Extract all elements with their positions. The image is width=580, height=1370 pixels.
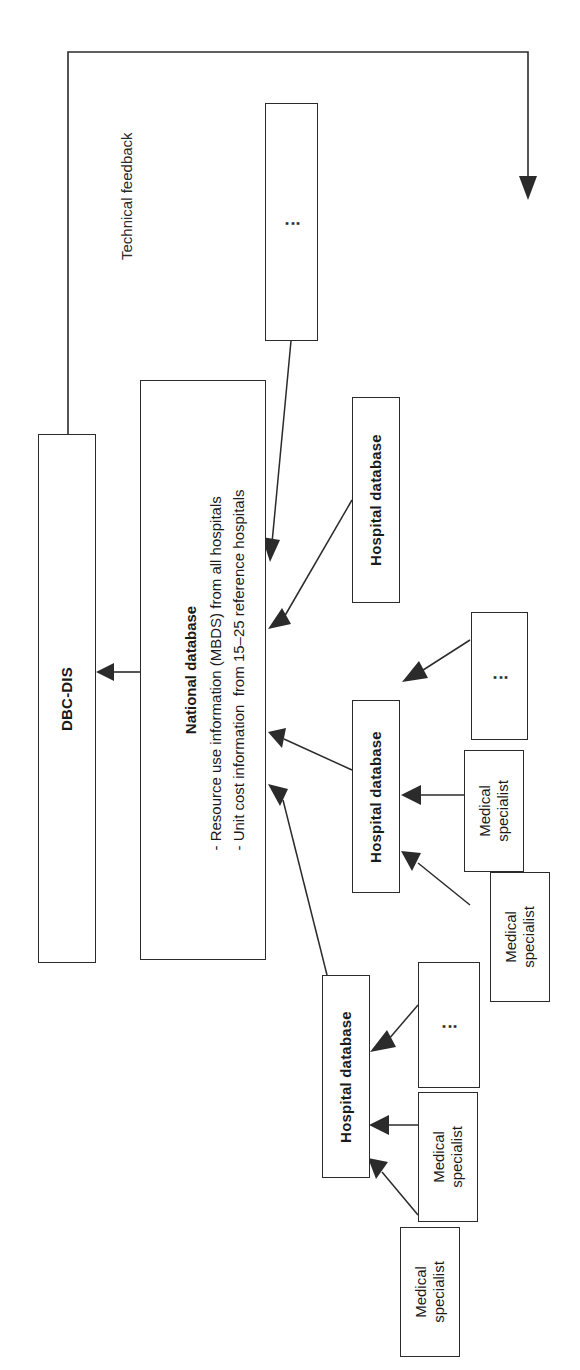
- edge-specialist-mid-2-arrowhead: [401, 851, 421, 871]
- node-medical-specialist-mid-1[interactable]: Medical specialist: [464, 750, 524, 872]
- node-hospital-database-top-label: Hospital database: [367, 434, 385, 566]
- edge-morehospitals-to-nationaldb: [272, 341, 291, 543]
- edge-hospitaldb-top-to-nationaldb: [283, 500, 352, 619]
- node-medical-specialist-bottom-2-label: Medical specialist: [412, 1261, 448, 1323]
- more-hospitals-ellipsis-icon: ⋮: [281, 213, 302, 232]
- edge-morespecialists-bottom-arrowhead: [370, 1030, 396, 1052]
- diagram-canvas: DBC-DIS National database- Resource use …: [0, 0, 580, 1370]
- edge-nationaldb-to-dbcdis-arrowhead: [96, 663, 114, 681]
- edge-specialist-bottom-1-arrowhead: [369, 1115, 389, 1135]
- edge-feedback-arrowhead: [519, 176, 537, 200]
- node-medical-specialist-mid-2[interactable]: Medical specialist: [490, 872, 550, 1002]
- edge-morespecialists-mid: [420, 640, 470, 672]
- node-medical-specialist-mid-2-label: Medical specialist: [502, 906, 538, 968]
- node-hospital-database-mid-label: Hospital database: [367, 731, 385, 863]
- node-national-database-title: National database: [179, 489, 202, 850]
- more-specialists-bottom-ellipsis-icon: ⋮: [439, 1016, 460, 1035]
- node-dbc-dis-label: DBC-DIS: [58, 667, 76, 731]
- node-hospital-database-top[interactable]: Hospital database: [352, 397, 400, 603]
- edge-hospitaldb-bottom-to-nationaldb: [283, 800, 327, 975]
- node-national-database[interactable]: National database- Resource use informat…: [140, 380, 266, 960]
- node-hospital-database-bottom-label: Hospital database: [337, 1011, 355, 1143]
- node-medical-specialist-bottom-1-label: Medical specialist: [430, 1126, 466, 1188]
- node-medical-specialist-bottom-1[interactable]: Medical specialist: [418, 1092, 478, 1222]
- node-more-specialists-mid[interactable]: ⋮: [471, 612, 528, 740]
- node-more-specialists-bottom[interactable]: ⋮: [418, 962, 480, 1088]
- node-more-hospitals[interactable]: ⋮: [265, 103, 318, 341]
- more-specialists-mid-ellipsis-icon: ⋮: [489, 667, 510, 686]
- node-national-database-line1: - Resource use information (MBDS) from a…: [207, 496, 224, 850]
- node-hospital-database-bottom[interactable]: Hospital database: [322, 975, 370, 1178]
- edge-specialist-bottom-2: [382, 1172, 418, 1215]
- edge-specialist-mid-1-arrowhead: [401, 785, 421, 805]
- edge-morespecialists-mid-arrowhead: [402, 661, 428, 682]
- edge-specialist-mid-2: [418, 863, 470, 905]
- node-dbc-dis[interactable]: DBC-DIS: [38, 434, 96, 963]
- edge-hospitaldb-mid-to-nationaldb: [284, 739, 352, 770]
- node-national-database-line2: - Unit cost information from 15–25 refer…: [230, 489, 247, 850]
- label-technical-feedback: Technical feedback: [118, 132, 135, 260]
- edge-specialist-bottom-2-arrowhead: [368, 1158, 388, 1179]
- node-medical-specialist-bottom-2[interactable]: Medical specialist: [400, 1227, 460, 1357]
- edge-morespecialists-bottom: [388, 1005, 418, 1040]
- node-medical-specialist-mid-1-label: Medical specialist: [476, 780, 512, 842]
- node-national-database-text: National database- Resource use informat…: [132, 489, 274, 850]
- node-hospital-database-mid[interactable]: Hospital database: [352, 700, 400, 893]
